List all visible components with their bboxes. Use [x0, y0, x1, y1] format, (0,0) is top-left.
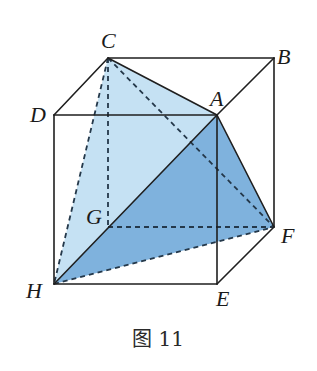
edge-ab	[217, 58, 274, 115]
label-a: A	[208, 86, 224, 111]
label-b: B	[277, 44, 290, 69]
label-e: E	[215, 286, 230, 311]
label-d: D	[29, 102, 46, 127]
cube-tetrahedron-diagram: C B A D G F H E 图 11	[0, 0, 317, 371]
label-h: H	[25, 278, 43, 303]
label-g: G	[86, 204, 102, 229]
label-c: C	[101, 28, 116, 53]
figure-caption: 图 11	[132, 327, 184, 351]
label-f: F	[280, 223, 295, 248]
